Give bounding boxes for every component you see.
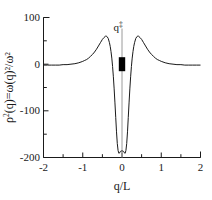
x-tick-label-2: 2 [198,161,204,173]
q-dagger-superscript: ‡ [119,20,123,29]
y-tick-label-minus100: -100 [20,104,41,116]
svg-text:ρ2(q)=ω(q)²/ω²: ρ2(q)=ω(q)²/ω² [2,52,16,123]
chart-figure: 100 0 -100 -200 -2 -1 0 1 2 q/L ρ2(q)=ω(… [0,0,212,200]
y-tick-label-0: 0 [35,58,41,70]
x-tick-label-minus2: -2 [39,161,48,173]
y-tick-label-100: 100 [24,11,41,23]
y-tick-label-minus200: -200 [20,151,41,163]
x-axis-title: q/L [114,179,131,193]
q-dagger-square-marker [119,57,125,71]
plot-background [0,0,212,200]
x-tick-label-0: 0 [119,161,125,173]
y-axis-title: ρ2(q)=ω(q)²/ω² [2,52,16,123]
rho-squared-vs-q-plot: 100 0 -100 -200 -2 -1 0 1 2 q/L ρ2(q)=ω(… [0,0,212,200]
x-tick-label-minus1: -1 [78,161,87,173]
x-tick-label-1: 1 [159,161,165,173]
y-axis-title-rest: (q)=ω(q)²/ω² [2,52,16,113]
